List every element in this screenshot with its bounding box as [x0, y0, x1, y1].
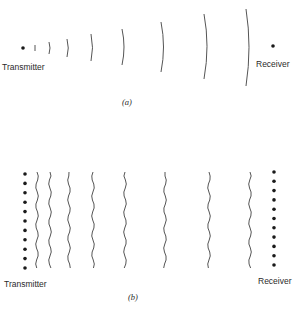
- transmitter-label: Transmitter: [2, 62, 45, 72]
- panel-caption: (b): [128, 292, 138, 302]
- plane-wavefronts: [36, 172, 252, 268]
- transmitter-dot: [23, 257, 27, 261]
- receiver-dot: [272, 217, 276, 221]
- wavefront-arc: [161, 22, 164, 72]
- receiver-label: Receiver: [258, 276, 292, 286]
- wavefront-line: [249, 172, 252, 268]
- wavefront-arc: [122, 29, 124, 65]
- receiver-dot: [272, 180, 276, 184]
- receiver-dot: [272, 207, 276, 211]
- wavefront-arc: [91, 34, 93, 61]
- transmitter-dot: [23, 191, 27, 195]
- wavefront-line: [164, 172, 167, 268]
- spherical-wavefronts: [35, 9, 249, 86]
- transmitter-dot: [23, 210, 27, 214]
- receiver-array: [272, 170, 276, 267]
- transmitter-dot: [23, 200, 27, 204]
- transmitter-dot: [23, 172, 27, 176]
- receiver-dot: [272, 170, 276, 174]
- wavefront-arc: [204, 14, 207, 79]
- transmitter-point: [21, 46, 25, 50]
- wavefront-arc: [49, 42, 50, 54]
- transmitter-dot: [23, 266, 27, 270]
- wavefront-arc: [246, 9, 249, 86]
- receiver-point: [271, 44, 275, 48]
- receiver-dot: [272, 189, 276, 193]
- transmitter-dot: [23, 247, 27, 251]
- wavefront-line: [208, 172, 211, 268]
- receiver-dot: [272, 226, 276, 230]
- wavefront-arc: [67, 39, 68, 57]
- receiver-dot: [272, 263, 276, 267]
- panel-b: Transmitter Receiver (b): [4, 170, 292, 302]
- panel-caption: (a): [122, 97, 132, 107]
- wavefront-line: [124, 172, 127, 268]
- wavefront-line: [92, 172, 95, 268]
- receiver-dot: [272, 235, 276, 239]
- wave-propagation-diagram: Transmitter Receiver (a) Transmitter Rec…: [0, 0, 298, 310]
- transmitter-dot: [23, 182, 27, 186]
- transmitter-array: [23, 172, 27, 270]
- receiver-dot: [272, 254, 276, 258]
- transmitter-dot: [23, 229, 27, 233]
- wavefront-line: [68, 172, 71, 268]
- receiver-dot: [272, 198, 276, 202]
- receiver-dot: [272, 245, 276, 249]
- wavefront-line: [49, 172, 52, 268]
- receiver-label: Receiver: [256, 59, 290, 69]
- transmitter-dot: [23, 238, 27, 242]
- panel-a: Transmitter Receiver (a): [2, 9, 290, 107]
- transmitter-dot: [23, 219, 27, 223]
- wavefront-line: [36, 172, 39, 268]
- transmitter-label: Transmitter: [4, 279, 47, 289]
